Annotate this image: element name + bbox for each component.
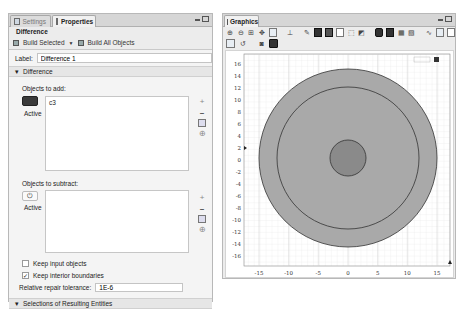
- section-selections-title: Selections of Resulting Entities: [23, 300, 112, 307]
- graphics-tabbar: Graphics: [223, 14, 455, 27]
- repair-tolerance-field[interactable]: [95, 283, 183, 292]
- reset-icon[interactable]: ↺: [238, 39, 247, 48]
- svg-text:0: 0: [346, 270, 350, 276]
- clear-selection-icon[interactable]: [198, 119, 206, 127]
- plus-icon[interactable]: +: [200, 97, 205, 106]
- render-icon[interactable]: ∿: [425, 28, 433, 37]
- tab-properties[interactable]: Properties: [52, 15, 96, 27]
- settings-content: Label: ▾ Difference Objects to add: Acti…: [9, 49, 212, 301]
- view-all-icon[interactable]: [436, 28, 444, 37]
- view-settings-icon[interactable]: [447, 28, 455, 37]
- svg-text:8: 8: [238, 109, 242, 115]
- power-icon: ⏻: [27, 192, 33, 200]
- zoom-extents-icon[interactable]: ✥: [258, 28, 266, 37]
- repair-tolerance-row: Relative repair tolerance:: [19, 283, 183, 292]
- camera-icon[interactable]: ◙: [257, 39, 266, 48]
- section-selections[interactable]: ▾ Selections of Resulting Entities: [9, 298, 212, 309]
- svg-text:-10: -10: [284, 270, 293, 276]
- keep-input-objects-row: Keep input objects: [22, 260, 86, 267]
- axis-orientation-icon[interactable]: ⊥: [286, 28, 294, 37]
- minimize-icon[interactable]: [195, 19, 200, 21]
- settings-tabbar: Settings Properties: [9, 14, 212, 27]
- graphics-toolbar-row2: ↺ ◙: [223, 38, 455, 49]
- pan-icon[interactable]: [269, 28, 277, 37]
- maximize-icon[interactable]: [202, 16, 209, 22]
- wireframe-icon[interactable]: [386, 28, 394, 37]
- select-icon[interactable]: ✎: [304, 28, 312, 37]
- objects-to-add-list[interactable]: c3: [45, 96, 189, 171]
- keep-input-objects-checkbox[interactable]: [22, 260, 29, 267]
- svg-text:-2: -2: [236, 169, 241, 175]
- tab-settings-label: Settings: [23, 18, 47, 25]
- zoom-in-icon[interactable]: ⊕: [226, 28, 234, 37]
- objects-to-subtract-list[interactable]: [45, 190, 189, 253]
- window-controls: [195, 16, 209, 22]
- svg-text:0: 0: [238, 157, 242, 163]
- zoom-box-icon[interactable]: ⊞: [247, 28, 255, 37]
- zoom-to-selection-icon[interactable]: ⊕: [199, 225, 206, 234]
- svg-text:14: 14: [234, 73, 241, 79]
- save-icon[interactable]: [269, 39, 278, 48]
- inner-circle[interactable]: [330, 140, 366, 176]
- svg-text:2: 2: [238, 145, 242, 151]
- geometry-plot: 16 14 12 10 8 6 4 2 0 -2 -4 -6 -8 -10 -1…: [226, 51, 455, 279]
- svg-text:-10: -10: [232, 217, 241, 223]
- keep-input-objects-label: Keep input objects: [33, 260, 86, 267]
- svg-text:4: 4: [238, 133, 242, 139]
- select-point-icon[interactable]: [336, 28, 344, 37]
- minus-icon[interactable]: –: [200, 204, 204, 213]
- transparency-icon[interactable]: [375, 28, 383, 37]
- svg-text:16: 16: [234, 61, 241, 67]
- svg-text:-8: -8: [236, 205, 242, 211]
- deselect-icon[interactable]: ⬚: [347, 28, 355, 37]
- toolbar-separator: [369, 28, 372, 37]
- tab-properties-label: Properties: [61, 18, 93, 25]
- collapse-triangle-icon: ▾: [15, 300, 19, 308]
- chevron-down-icon[interactable]: ▼: [69, 40, 74, 46]
- svg-text:-15: -15: [255, 270, 264, 276]
- add-active-label: Active: [24, 110, 42, 117]
- label-field[interactable]: [37, 53, 212, 63]
- maximize-icon[interactable]: [445, 16, 452, 22]
- subtract-active-toggle[interactable]: ⏻: [22, 191, 38, 201]
- svg-text:10: 10: [404, 270, 411, 276]
- clear-selection-icon[interactable]: [198, 215, 206, 223]
- tab-settings[interactable]: Settings: [10, 15, 51, 27]
- plus-icon[interactable]: +: [200, 193, 205, 202]
- graphics-axes-icon: [227, 19, 228, 25]
- zoom-to-selection-icon[interactable]: ⊕: [199, 129, 206, 138]
- list-item[interactable]: c3: [49, 99, 185, 106]
- keep-interior-boundaries-row: ✓ Keep interior boundaries: [22, 272, 104, 279]
- build-all-button[interactable]: Build All Objects: [88, 39, 135, 46]
- label-caption: Label:: [15, 55, 33, 62]
- build-selected-button[interactable]: Build Selected: [23, 39, 65, 46]
- repair-tolerance-label: Relative repair tolerance:: [19, 284, 91, 291]
- grid-icon[interactable]: ▦: [397, 28, 405, 37]
- section-difference[interactable]: ▾ Difference: [9, 66, 212, 77]
- svg-text:-12: -12: [232, 229, 241, 235]
- tab-graphics[interactable]: Graphics: [224, 15, 259, 27]
- add-active-toggle[interactable]: [22, 96, 38, 106]
- settings-panel: Settings Properties Difference Build Sel…: [8, 13, 213, 302]
- minimize-icon[interactable]: [438, 19, 443, 21]
- section-difference-title: Difference: [23, 68, 53, 75]
- svg-text:10: 10: [234, 97, 241, 103]
- toolbar-separator: [297, 28, 300, 37]
- show-axis-icon[interactable]: ▧: [408, 28, 416, 37]
- zoom-out-icon[interactable]: ⊖: [237, 28, 245, 37]
- svg-text:-16: -16: [232, 253, 241, 259]
- graphics-canvas[interactable]: 16 14 12 10 8 6 4 2 0 -2 -4 -6 -8 -10 -1…: [225, 50, 454, 278]
- toolbar-separator: [419, 28, 422, 37]
- collapse-triangle-icon: ▾: [15, 68, 19, 76]
- build-selected-icon: [13, 40, 19, 46]
- image-snapshot-icon[interactable]: [226, 39, 235, 48]
- svg-text:12: 12: [234, 85, 241, 91]
- select-boundary-icon[interactable]: [325, 28, 333, 37]
- minus-icon[interactable]: –: [200, 108, 204, 117]
- svg-text:-6: -6: [236, 193, 242, 199]
- x-axis-ticks: -15 -10 -5 0 5 10 15: [255, 270, 441, 276]
- select-domain-icon[interactable]: [314, 28, 322, 37]
- scene-light-icon[interactable]: ◩: [358, 28, 366, 37]
- keep-interior-boundaries-checkbox[interactable]: ✓: [22, 272, 29, 279]
- objects-to-add-caption: Objects to add:: [22, 85, 66, 92]
